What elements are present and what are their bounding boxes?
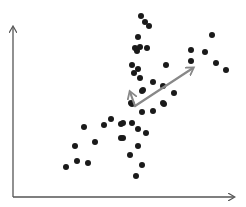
data-point — [74, 158, 80, 164]
data-point — [144, 45, 150, 51]
data-point — [137, 75, 143, 81]
scatter-chart — [0, 0, 246, 207]
data-point — [81, 124, 87, 130]
data-point — [223, 67, 229, 73]
data-points — [63, 13, 229, 179]
data-point — [129, 62, 135, 68]
data-point — [120, 120, 126, 126]
data-point — [135, 34, 141, 40]
data-point — [213, 60, 219, 66]
data-point — [139, 162, 145, 168]
data-point — [63, 164, 69, 170]
data-point — [202, 49, 208, 55]
axes — [13, 27, 234, 197]
data-point — [150, 79, 156, 85]
data-point — [188, 47, 194, 53]
data-point — [129, 120, 135, 126]
data-point — [163, 62, 169, 68]
data-point — [150, 108, 156, 114]
data-point — [72, 143, 78, 149]
data-point — [160, 100, 166, 106]
data-point — [101, 122, 107, 128]
data-point — [139, 88, 145, 94]
data-point — [127, 152, 133, 158]
data-point — [133, 173, 139, 179]
data-point — [137, 44, 143, 50]
data-point — [139, 109, 145, 115]
data-point — [108, 116, 114, 122]
data-point — [135, 126, 141, 132]
data-point — [131, 70, 137, 76]
data-point — [188, 58, 194, 64]
data-point — [209, 32, 215, 38]
data-point — [143, 130, 149, 136]
data-point — [92, 139, 98, 145]
data-point — [171, 90, 177, 96]
data-point — [146, 23, 152, 29]
data-point — [135, 143, 141, 149]
data-point — [138, 13, 144, 19]
data-point — [120, 135, 126, 141]
data-point — [85, 160, 91, 166]
